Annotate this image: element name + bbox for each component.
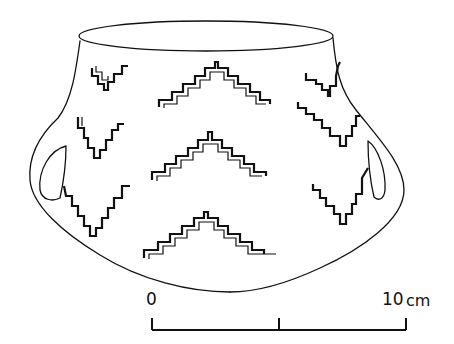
chevron-bottom-center: [144, 212, 276, 259]
pot-body-left: [30, 41, 230, 292]
pot-rim: [79, 21, 333, 51]
scale-label-unit: cm: [406, 293, 430, 309]
chevron-top-center: [159, 62, 270, 108]
chevron-left-middle: [78, 117, 124, 158]
chevron-right-bottom: [313, 168, 368, 224]
chevron-left-top: [92, 66, 128, 90]
chevron-right-middle: [298, 102, 360, 146]
chevron-middle-center: [152, 132, 266, 181]
chevron-right-top: [306, 62, 340, 96]
scale-bar: [152, 318, 406, 330]
handle-right: [368, 141, 385, 199]
scale-label-end: 10: [382, 291, 404, 308]
scale-label-start: 0: [146, 291, 157, 308]
handle-left: [40, 146, 66, 200]
chevron-left-bottom: [64, 186, 130, 236]
